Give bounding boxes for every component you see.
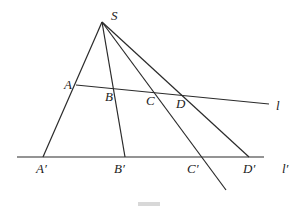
label-c-prime: C′: [187, 161, 199, 176]
figure-caption-fragment: [138, 202, 160, 206]
label-b: B: [105, 89, 113, 104]
label-a-prime: A′: [35, 161, 47, 176]
label-line-l: l: [276, 98, 280, 113]
label-a: A: [63, 77, 72, 92]
label-c: C: [146, 93, 155, 108]
ray-s-a-prime: [43, 22, 102, 157]
label-b-prime: B′: [114, 161, 125, 176]
label-line-l-prime: l′: [282, 161, 289, 176]
label-d: D: [175, 96, 186, 111]
label-d-prime: D′: [242, 161, 255, 176]
perspectivity-diagram: S A B C D l A′ B′ C′ D′ l′: [0, 0, 304, 206]
label-s: S: [111, 8, 118, 23]
